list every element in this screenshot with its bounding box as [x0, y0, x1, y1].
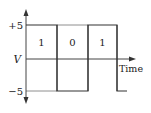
bit-label-1: 1 — [38, 37, 44, 48]
bit-label-2: 0 — [69, 37, 75, 48]
signal-waveform — [26, 25, 127, 91]
y-axis-label: V — [13, 53, 22, 65]
tick-label-high: +5 — [8, 20, 23, 31]
bit-label-3: 1 — [99, 37, 105, 48]
signal-diagram: +5 −5 V 1 0 1 Time — [0, 0, 151, 113]
tick-label-low: −5 — [8, 86, 23, 97]
x-axis-label: Time — [119, 63, 143, 74]
x-axis-arrow-icon — [129, 57, 136, 62]
y-axis-up-arrow-icon — [24, 9, 29, 16]
y-axis-down-arrow-icon — [24, 97, 29, 104]
